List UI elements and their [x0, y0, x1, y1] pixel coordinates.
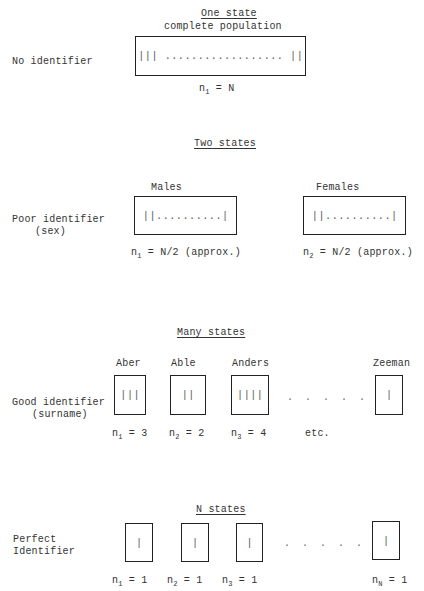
heading-one-state: One state [201, 8, 257, 19]
state-label-females: Females [316, 182, 359, 193]
subheading-complete-population: complete population [164, 21, 282, 32]
count-subscript: 1 [205, 88, 209, 96]
count-label-n2: n2 = 2 [169, 428, 204, 443]
count-label-n3: n3 = 1 [222, 575, 257, 590]
count-subscript: 2 [309, 252, 313, 260]
identifier-label-perfect-2: Identifier [13, 546, 75, 557]
count-subscript: 3 [228, 580, 232, 588]
tally-marks: || [171, 389, 205, 401]
count-subscript: N [378, 580, 382, 588]
count-label-n2: n2 = 1 [167, 575, 202, 590]
count-value: = 1 [184, 575, 203, 586]
tally-marks: ||..........| [135, 210, 236, 222]
count-label-n3: n3 = 4 [231, 428, 266, 443]
state-box-2: | [181, 523, 209, 562]
state-label-anders: Anders [232, 358, 269, 369]
tally-marks: | [126, 537, 152, 549]
identifier-label-perfect: Perfect [13, 534, 56, 545]
state-box-3: | [236, 523, 263, 562]
heading-many-states: Many states [177, 327, 245, 338]
count-subscript: 1 [118, 433, 122, 441]
tally-marks: ||| [115, 389, 145, 401]
state-box-population: ||| .................. || [135, 36, 306, 76]
count-value: = N/2 (approx.) [320, 247, 413, 258]
count-value: = 1 [239, 575, 258, 586]
count-label-n2: n2 = N/2 (approx.) [303, 247, 413, 262]
etc-label: etc. [305, 428, 330, 439]
state-box-aber: ||| [114, 375, 146, 415]
tally-marks: ||| .................. || [136, 50, 305, 62]
count-value: = N/2 (approx.) [148, 247, 241, 258]
count-subscript: 3 [237, 433, 241, 441]
count-label-n1: n1 = 1 [112, 575, 147, 590]
count-subscript: 2 [173, 580, 177, 588]
tally-marks: | [182, 537, 208, 549]
tally-marks: ||..........| [304, 210, 405, 222]
identifier-label-good: Good identifier [12, 397, 105, 408]
count-subscript: 1 [137, 252, 141, 260]
state-box-n: | [372, 521, 400, 560]
state-label-males: Males [151, 182, 182, 193]
ellipsis-many-states: . . . . . . [287, 392, 386, 403]
count-label-n1: n1 = 3 [112, 428, 147, 443]
state-box-males: ||..........| [134, 196, 237, 235]
state-box-zeeman: | [375, 375, 403, 415]
tally-marks: |||| [232, 389, 268, 401]
count-label-nN: nN = 1 [372, 575, 407, 590]
heading-n-states: N states [196, 504, 246, 515]
count-value: = 4 [248, 428, 267, 439]
count-label-n1: n1 = N/2 (approx.) [131, 247, 241, 262]
state-label-zeeman: Zeeman [373, 358, 410, 369]
tally-marks: | [376, 389, 402, 401]
heading-two-states: Two states [194, 138, 256, 149]
count-subscript: 1 [118, 580, 122, 588]
identifier-label-good-sub: (surname) [32, 409, 88, 420]
count-value: = 1 [129, 575, 148, 586]
state-box-1: | [125, 523, 153, 562]
tally-marks: | [237, 537, 262, 549]
tally-marks: | [373, 535, 399, 547]
count-label-n1: n1 = N [199, 83, 234, 98]
state-box-females: ||..........| [303, 196, 406, 235]
state-label-aber: Aber [116, 358, 141, 369]
count-value: = 3 [129, 428, 148, 439]
identifier-label-none: No identifier [12, 56, 93, 67]
count-value: = N [216, 83, 235, 94]
count-value: = 1 [389, 575, 408, 586]
state-box-anders: |||| [231, 375, 269, 415]
identifier-label-poor: Poor identifier [12, 214, 105, 225]
state-box-able: || [170, 375, 206, 415]
count-subscript: 2 [175, 433, 179, 441]
count-value: = 2 [186, 428, 205, 439]
state-label-able: Able [171, 358, 196, 369]
identifier-label-poor-sub: (sex) [35, 226, 66, 237]
